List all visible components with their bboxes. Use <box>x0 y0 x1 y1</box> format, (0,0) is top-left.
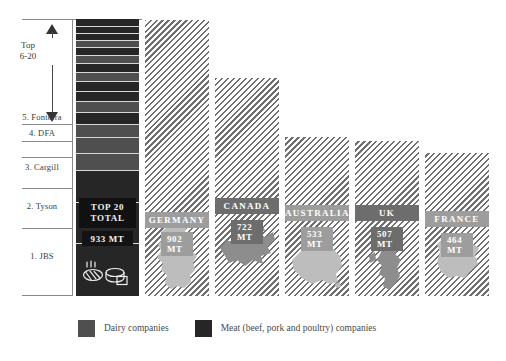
country-label-france: France <box>425 211 489 227</box>
rank-label-dfa: 4. DFA <box>14 129 70 138</box>
rank-label-fonterra: 5. Fonterra <box>14 113 70 122</box>
country-bar-canada: Canada 722 MT <box>215 78 279 296</box>
stack-segment <box>76 56 139 63</box>
legend-swatch-dairy <box>78 320 95 337</box>
rank-label-jbs: 1. JBS <box>14 252 70 261</box>
tick-tyson <box>22 188 72 189</box>
country-value-canada: 722 MT <box>231 220 263 244</box>
food-icon-group <box>82 258 134 286</box>
tick-jbs <box>22 228 72 229</box>
legend-label-meat: Meat (beef, pork and poultry) companies <box>221 323 377 333</box>
hatch-fill <box>215 78 279 296</box>
country-bar-uk: UK 507 MT <box>355 141 419 296</box>
stack-segment <box>76 113 139 124</box>
rank-label-cargill: 3. Cargill <box>14 163 70 172</box>
cheese-wheel-icon <box>106 269 124 277</box>
infographic-canvas: Top 6-20 5. Fonterra 4. DFA 3. Cargill 2… <box>0 0 506 361</box>
total-label-line1: Top 20 <box>91 202 124 213</box>
stack-segment-fonterra <box>76 138 139 153</box>
stack-segment <box>76 82 139 91</box>
food-icons-svg <box>82 258 134 286</box>
steam-icon <box>87 261 95 267</box>
country-value-france: 464 MT <box>441 233 473 257</box>
legend-item-dairy: Dairy companies <box>78 320 169 337</box>
tick-dfa <box>22 141 72 142</box>
stack-segment <box>76 125 139 137</box>
axis-bottom-rule <box>22 295 72 296</box>
stack-segment-dfa <box>76 154 139 170</box>
country-bar-australia: Australia 533 MT <box>285 137 349 296</box>
stack-segment <box>76 19 139 26</box>
stack-segment <box>76 102 139 112</box>
country-value-australia: 533 MT <box>301 227 333 251</box>
axis-vertical-rule <box>72 19 73 296</box>
country-bar-germany: Germany 902 MT <box>145 20 209 296</box>
top20-stacked-column: Top 6-20 5. Fonterra 4. DFA 3. Cargill 2… <box>0 0 145 300</box>
legend-label-dairy: Dairy companies <box>104 323 169 333</box>
top20-total-callout: Top 20 Total <box>79 198 136 228</box>
country-value-germany: 902 MT <box>161 232 193 256</box>
stack-segment <box>76 92 139 101</box>
top-6-20-label-line1: Top <box>21 40 35 50</box>
rank-label-tyson: 2. Tyson <box>14 202 70 211</box>
country-label-uk: UK <box>355 205 419 221</box>
country-label-australia: Australia <box>285 205 349 221</box>
country-label-germany: Germany <box>145 212 209 228</box>
top-6-20-label-line2: 6-20 <box>20 51 37 61</box>
stacked-bar-top20 <box>76 19 139 296</box>
stack-segment <box>76 64 139 72</box>
country-bar-france: France 464 MT <box>425 153 489 296</box>
tick-fonterra <box>22 124 72 125</box>
top20-total-value: 933 MT <box>82 231 133 246</box>
top-6-20-label: Top 6-20 <box>0 38 56 65</box>
stack-segment <box>76 48 139 55</box>
legend-swatch-meat <box>195 320 212 337</box>
tick-cargill <box>22 157 72 158</box>
stack-segment <box>76 73 139 81</box>
chart-legend: Dairy companies Meat (beef, pork and pou… <box>78 316 478 340</box>
country-value-uk: 507 MT <box>371 227 403 251</box>
country-label-canada: Canada <box>215 198 279 214</box>
legend-item-meat: Meat (beef, pork and poultry) companies <box>195 320 377 337</box>
total-label-line2: Total <box>90 213 124 224</box>
